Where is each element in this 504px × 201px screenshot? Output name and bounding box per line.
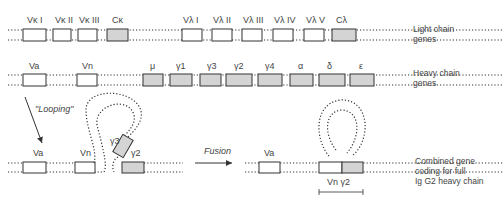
label-alpha: α: [298, 61, 303, 71]
heavy-chain-caption: Heavy chain genes: [413, 68, 460, 88]
label-vl4: Vλ IV: [274, 15, 296, 25]
fused-label-va: Va: [264, 148, 274, 158]
label-vl5: Vλ V: [306, 15, 325, 25]
label-epsilon: ε: [359, 61, 363, 71]
label-delta: δ: [327, 61, 332, 71]
label-vl1: Vλ I: [183, 15, 199, 25]
combined-label: Vn γ2: [327, 177, 350, 187]
label-ck: Cκ: [112, 15, 123, 25]
label-vl2: Vλ II: [213, 15, 231, 25]
label-g3: γ3: [207, 61, 217, 71]
label-cl: Cλ: [336, 15, 347, 25]
loop-label-vn: Vn: [80, 148, 91, 158]
loop-label-g3: γ3: [110, 136, 120, 146]
loop-label-g2: γ2: [131, 148, 141, 158]
combined-caption: Combined gene coding for full Ig G2 heav…: [415, 156, 484, 186]
label-vn: Vn: [82, 61, 93, 71]
label-vk3: Vκ III: [79, 15, 100, 25]
fusion-label: Fusion: [204, 146, 231, 156]
loop-label-va: Va: [33, 148, 43, 158]
label-g2: γ2: [234, 61, 244, 71]
looping-label: "Looping": [35, 104, 73, 114]
label-va: Va: [29, 61, 39, 71]
label-g4: γ4: [265, 61, 275, 71]
label-vk1: Vκ I: [27, 15, 43, 25]
label-g1: γ1: [176, 61, 186, 71]
label-mu: μ: [150, 61, 155, 71]
light-chain-caption: Light chain genes: [413, 24, 454, 44]
label-vl3: Vλ III: [243, 15, 264, 25]
label-vk2: Vκ II: [55, 15, 73, 25]
